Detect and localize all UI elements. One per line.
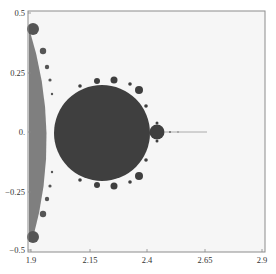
y-tick-label: 0. (19, 127, 25, 137)
y-tick-label: 0.5 (14, 8, 25, 18)
y-tick-label: −0.25 (5, 187, 25, 197)
x-tick-labels: 1.9 2.15 2.4 2.65 2.9 (26, 255, 268, 265)
fractal-plot: 1.9 2.15 2.4 2.65 2.9 0.5 0.25 0. −0.25 … (0, 0, 276, 274)
x-tick-label: 2.9 (257, 255, 268, 265)
x-tick-label: 2.65 (198, 255, 213, 265)
x-tick-label: 1.9 (26, 255, 37, 265)
y-tick-labels: 0.5 0.25 0. −0.25 −0.5 (5, 8, 25, 255)
x-tick-label: 2.4 (142, 255, 153, 265)
y-tick-label: −0.5 (10, 245, 25, 255)
y-tick-label: 0.25 (10, 68, 25, 78)
x-tick-label: 2.15 (83, 255, 98, 265)
